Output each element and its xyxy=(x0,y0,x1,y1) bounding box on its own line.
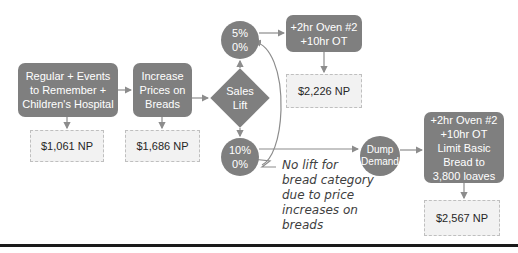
sales-lift-label: Sales Lift xyxy=(210,68,270,128)
lift-10-percent-node: 10% 0% xyxy=(221,138,259,176)
result-oven-np: $2,226 NP xyxy=(286,74,362,108)
annotation-note: No lift for bread category due to price … xyxy=(282,158,392,233)
result-oven-limit-np: $2,567 NP xyxy=(424,200,500,236)
lift-5-percent-node: 5% 0% xyxy=(221,21,259,59)
result-start-np: $1,061 NP xyxy=(30,130,104,162)
result-increase-np: $1,686 NP xyxy=(125,130,200,162)
increase-prices-label: Increase Prices on Breads xyxy=(136,69,189,111)
start-node: Regular + Events to Remember + Children'… xyxy=(18,63,118,117)
increase-prices-node: Increase Prices on Breads xyxy=(133,63,192,117)
sales-lift-decision: Sales Lift xyxy=(210,68,270,128)
bottom-divider xyxy=(0,244,518,247)
oven-ot-node: +2hr Oven #2 +10hr OT xyxy=(286,15,362,52)
oven-ot-limit-node: +2hr Oven #2 +10hr OT Limit Basic Bread … xyxy=(424,112,504,183)
start-node-label: Regular + Events to Remember + Children'… xyxy=(21,69,115,111)
